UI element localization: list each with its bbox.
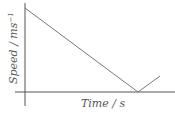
y-axis-label: Speed / ms−1	[7, 12, 20, 84]
speed-line	[25, 8, 160, 92]
y-axis-label-main: Speed / ms	[7, 22, 20, 84]
y-axis-label-sup: −1	[7, 12, 15, 22]
x-axis-label: Time / s	[81, 97, 125, 110]
speed-time-graph: Time / s Speed / ms−1	[0, 0, 175, 116]
